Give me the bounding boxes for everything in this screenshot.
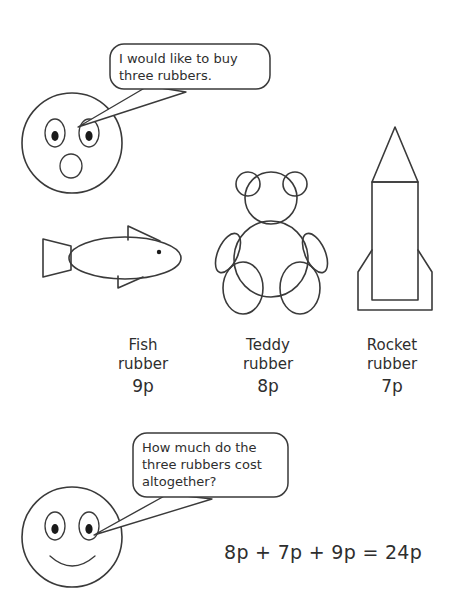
fish-tail (43, 239, 71, 277)
left-pupil (51, 131, 58, 141)
right-pupil (85, 524, 92, 534)
item-caption-fish: Fish rubber 9p (88, 336, 198, 398)
teddy-bear-icon (210, 172, 332, 314)
smiling-face (22, 487, 122, 587)
speech-bubble-2-text: How much do the three rubbers cost altog… (142, 439, 290, 490)
teddy-head (245, 172, 297, 224)
speech-bubble-1-tail (78, 86, 186, 127)
fish-belly-fin (118, 276, 143, 288)
teddy-left-leg (223, 262, 263, 314)
fish-body (69, 237, 181, 279)
teddy-right-ear (283, 172, 307, 196)
speech-bubble-2-tail (94, 494, 212, 535)
fish-eye (157, 250, 161, 254)
rocket-nose-cone (372, 127, 418, 182)
teddy-right-leg (280, 262, 320, 314)
face-outline (22, 487, 122, 587)
answer-equation: 8p + 7p + 9p = 24p (224, 541, 422, 563)
item-price-rocket: 7p (336, 375, 448, 398)
right-pupil (85, 131, 92, 141)
left-pupil (51, 524, 58, 534)
rocket-body (372, 182, 418, 300)
item-price-teddy: 8p (212, 375, 324, 398)
rocket-fins (358, 250, 432, 310)
worksheet-illustrations (0, 0, 468, 610)
speech-bubble-1-text: I would like to buy three rubbers. (119, 50, 269, 84)
fish-icon (43, 226, 181, 288)
surprised-face (22, 93, 122, 193)
item-caption-rocket: Rocket rubber 7p (336, 336, 448, 398)
smile-mouth (50, 556, 95, 566)
worksheet-page: I would like to buy three rubbers. How m… (0, 0, 468, 610)
rocket-icon (358, 127, 432, 310)
item-name-rocket: Rocket rubber (336, 336, 448, 374)
open-mouth (60, 154, 82, 178)
item-caption-teddy: Teddy rubber 8p (212, 336, 324, 398)
item-price-fish: 9p (88, 375, 198, 398)
item-name-fish: Fish rubber (88, 336, 198, 374)
teddy-right-arm (297, 230, 332, 277)
teddy-body (234, 221, 308, 297)
item-name-teddy: Teddy rubber (212, 336, 324, 374)
